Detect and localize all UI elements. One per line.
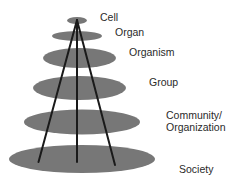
label-group: Group: [149, 76, 178, 88]
ellipse-group: [33, 76, 126, 100]
ellipse-organism: [43, 48, 116, 68]
label-organ: Organ: [115, 26, 144, 38]
label-organization: Organization: [166, 121, 226, 133]
ellipse-society: [9, 145, 155, 173]
label-cell: Cell: [100, 11, 118, 23]
ellipse-community: [24, 110, 140, 135]
label-organism: Organism: [129, 46, 175, 58]
label-community: Community/: [166, 109, 222, 121]
levels-diagram: Cell Organ Organism Group Community/ Org…: [0, 0, 238, 184]
label-society: Society: [179, 163, 214, 175]
